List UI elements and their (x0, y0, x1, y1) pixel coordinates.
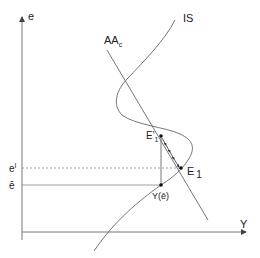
point-e1 (179, 166, 183, 170)
e1-label: E1 (187, 165, 202, 180)
y-ebar-label: Y(ē) (152, 191, 169, 201)
y-axis-label: e (28, 10, 34, 22)
point-y-ebar (159, 183, 163, 187)
e1-prime-label: E'1 (146, 130, 159, 143)
e-prime-label: eI (9, 162, 17, 174)
adjustment-arrows (162, 138, 179, 167)
is-label: IS (183, 12, 193, 24)
point-e1-prime (159, 134, 163, 138)
aa-label: AAc (104, 34, 123, 48)
x-axis-label: Y (240, 218, 248, 230)
is-aa-diagram: e Y eI ē IS AAc E'1 E1 Y(ē) (0, 0, 260, 258)
is-curve (94, 20, 192, 251)
e-bar-label: ē (9, 180, 15, 191)
